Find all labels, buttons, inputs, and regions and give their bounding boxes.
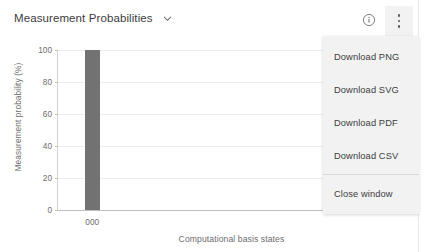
kebab-dot <box>398 14 400 16</box>
y-tick-mark <box>55 50 58 51</box>
menu-item-download-pdf[interactable]: Download PDF <box>323 106 419 139</box>
y-tick-label: 20 <box>43 173 52 183</box>
y-tick-mark <box>55 146 58 147</box>
chart-header: Measurement Probabilities <box>0 0 419 40</box>
context-menu[interactable]: Download PNGDownload SVGDownload PDFDown… <box>323 36 419 214</box>
y-tick-label: 0 <box>47 205 52 215</box>
y-tick-mark <box>55 210 58 211</box>
x-tick-label: 000 <box>85 217 99 227</box>
y-axis-label: Measurement probability (%) <box>13 37 23 197</box>
chevron-down-icon[interactable] <box>162 13 173 24</box>
chart-title-dropdown[interactable]: Measurement Probabilities <box>14 12 173 24</box>
y-tick-label: 100 <box>38 45 52 55</box>
info-circle-icon <box>362 13 376 30</box>
menu-item-download-png[interactable]: Download PNG <box>323 40 419 73</box>
kebab-menu-button[interactable] <box>385 6 413 36</box>
header-actions <box>355 6 413 36</box>
kebab-menu-icon <box>398 13 400 30</box>
menu-divider <box>323 174 419 175</box>
chart-card: Measurement Probabilities <box>0 0 419 252</box>
y-tick-mark <box>55 82 58 83</box>
menu-item-close-window[interactable]: Close window <box>323 177 419 210</box>
y-tick-mark <box>55 114 58 115</box>
x-axis-label: Computational basis states <box>57 234 406 244</box>
y-tick-label: 60 <box>43 109 52 119</box>
info-button[interactable] <box>355 7 383 35</box>
menu-item-download-csv[interactable]: Download CSV <box>323 139 419 172</box>
y-tick-label: 80 <box>43 77 52 87</box>
y-tick-label: 40 <box>43 141 52 151</box>
kebab-dot <box>398 20 400 22</box>
menu-item-download-svg[interactable]: Download SVG <box>323 73 419 106</box>
bar[interactable] <box>85 50 100 210</box>
page-title: Measurement Probabilities <box>14 12 153 24</box>
kebab-dot <box>398 25 400 27</box>
y-tick-mark <box>55 178 58 179</box>
